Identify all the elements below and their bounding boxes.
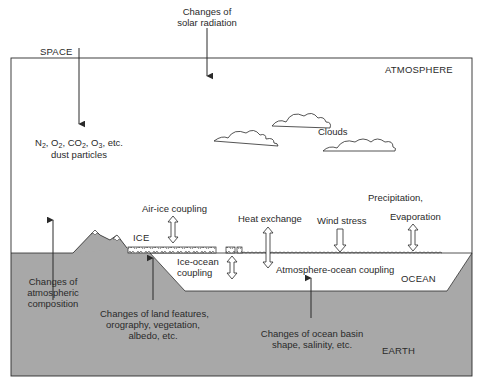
precip-evap-double-arrow [408,224,418,251]
solar-radiation-line1: Changes of [170,6,244,17]
land-features-line1: Changes of land features, [100,308,206,319]
precipitation-label: Precipitation, [368,192,423,203]
dust-particles-label: dust particles [20,149,138,160]
solar-radiation-label: Changes of solar radiation [170,6,244,28]
gas-n2: N [35,137,42,148]
ice-floe-1 [226,247,235,253]
atmos-composition-label: Changes of atmospheric composition [20,276,86,309]
air-ice-double-arrow [168,216,178,243]
gas-co2: , CO [62,137,82,148]
gas-o2: , O [46,137,59,148]
land-features-line2: orography, vegetation, [100,319,206,330]
gas-o3: , O [86,137,99,148]
air-ice-coupling-label: Air-ice coupling [142,203,207,214]
cloud-icon [323,139,396,151]
earth-label: EARTH [382,345,415,356]
solar-radiation-line2: solar radiation [170,17,244,28]
wind-stress-arrow [334,229,346,252]
ocean-label: OCEAN [401,273,436,284]
atmosphere-ocean-coupling-label: Atmosphere-ocean coupling [276,264,394,275]
heat-exchange-double-arrow [263,227,273,268]
atmos-composition-line2: atmospheric [20,287,86,298]
ice-ocean-line2: coupling [177,267,219,278]
wind-stress-label: Wind stress [317,215,367,226]
ocean-basin-line2: shape, salinity, etc. [260,339,364,350]
gas-etc: , etc. [102,137,123,148]
ice-shelf [128,247,216,253]
clouds-label: Clouds [318,126,348,137]
evaporation-label: Evaporation [390,211,441,222]
ice-ocean-coupling-label: Ice-ocean coupling [177,256,219,278]
land-features-label: Changes of land features, orography, veg… [100,308,206,341]
space-label: SPACE [40,46,73,57]
ocean-basin-line1: Changes of ocean basin [260,328,364,339]
heat-exchange-label: Heat exchange [238,213,302,224]
land-features-line3: albedo, etc. [100,330,206,341]
atmosphere-label: ATMOSPHERE [385,64,453,75]
ice-floe-2 [237,247,242,253]
ice-label: ICE [133,232,149,243]
atmos-composition-line1: Changes of [20,276,86,287]
climate-system-diagram: Changes of solar radiation SPACE ATMOSPH… [0,0,485,383]
ocean-basin-label: Changes of ocean basin shape, salinity, … [260,328,364,350]
composition-gases-label: N2, O2, CO2, O3, etc. [20,137,138,148]
atmos-composition-line3: composition [20,298,86,309]
ice-ocean-line1: Ice-ocean [177,256,219,267]
cloud-icon [214,130,278,146]
